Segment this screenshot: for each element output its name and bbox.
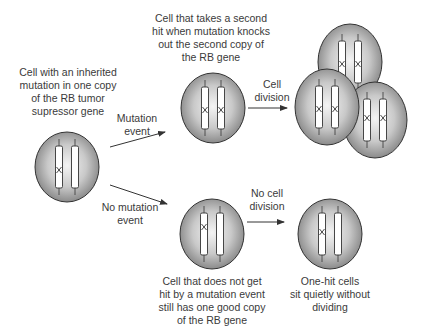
label-line: sit quietly without [282,288,378,301]
label-start-cell: Cell with an inherited mutation in one c… [2,66,134,118]
cell-second-hit [181,73,245,143]
label-line: No mutation [92,201,168,214]
label-line: dividing [282,301,378,314]
cell-no-hit [180,199,244,269]
label-line: still has one good copy [152,301,272,314]
label-line: of the RB gene [152,314,272,327]
label-one-hit-cells: One-hit cells sit quietly without dividi… [282,275,378,314]
label-line: hit by a mutation event [152,288,272,301]
cell-inherited-mutation [35,132,99,202]
label-line: division [247,200,287,213]
label-line: mutation in one copy [2,79,134,92]
label-no-cell-division: No cell division [247,187,287,213]
label-second-hit-cell: Cell that takes a second hit when mutati… [146,12,276,64]
label-line: division [252,91,292,104]
label-line: of the RB tumor [2,92,134,105]
label-no-hit-cell: Cell that does not get hit by a mutation… [152,275,272,327]
label-line: No cell [247,187,287,200]
cell-divided-front [295,69,359,145]
label-cell-division: Cell division [252,78,292,104]
label-line: Cell that takes a second [146,12,276,25]
label-line: Cell with an inherited [2,66,134,79]
label-line: Cell [252,78,292,91]
label-line: Mutation [112,112,162,125]
cell-one-hit [298,199,362,269]
label-no-mutation-event: No mutation event [92,201,168,227]
label-mutation-event: Mutation event [112,112,162,138]
label-line: One-hit cells [282,275,378,288]
label-line: event [112,125,162,138]
label-line: event [92,214,168,227]
label-line: hit when mutation knocks [146,25,276,38]
label-line: the RB gene [146,51,276,64]
label-line: Cell that does not get [152,275,272,288]
label-line: out the second copy of [146,38,276,51]
